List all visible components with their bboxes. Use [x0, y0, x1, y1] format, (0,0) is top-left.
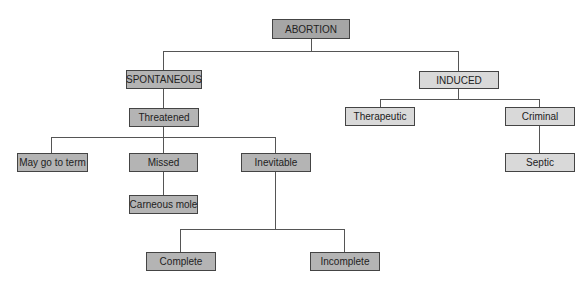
node-missed: Missed	[129, 153, 198, 172]
connector-criminal-septic	[539, 125, 540, 153]
connector-to-incomplete	[344, 229, 345, 252]
connector-inevitable-down	[275, 171, 276, 229]
node-may-go-to-term: May go to term	[17, 153, 88, 172]
connector-to-missed	[163, 137, 164, 153]
node-complete: Complete	[146, 252, 216, 271]
node-threatened: Threatened	[129, 108, 199, 127]
connector-root-down	[311, 38, 312, 51]
connector-induced-down	[458, 88, 459, 99]
connector-root-horizontal	[163, 51, 459, 52]
connector-to-spontaneous	[163, 51, 164, 70]
node-spontaneous: SPONTANEOUS	[126, 70, 202, 89]
node-septic: Septic	[505, 153, 575, 172]
node-abortion: ABORTION	[272, 19, 350, 39]
connector-inevitable-horizontal	[180, 229, 345, 230]
connector-to-complete	[180, 229, 181, 252]
connector-to-may-go-to-term	[51, 137, 52, 153]
node-therapeutic: Therapeutic	[345, 107, 415, 126]
connector-spontaneous-threatened	[163, 88, 164, 108]
connector-to-therapeutic	[380, 99, 381, 107]
connector-to-inevitable	[275, 137, 276, 153]
connector-threatened-down	[163, 126, 164, 137]
node-induced: INDUCED	[419, 71, 499, 89]
node-inevitable: Inevitable	[241, 153, 311, 172]
connector-to-criminal	[539, 99, 540, 107]
node-carneous-mole: Carneous mole	[129, 195, 198, 214]
connector-induced-horizontal	[380, 99, 540, 100]
node-criminal: Criminal	[505, 107, 575, 126]
node-incomplete: Incomplete	[310, 252, 380, 271]
connector-to-induced	[458, 51, 459, 71]
connector-missed-carneous	[163, 171, 164, 195]
